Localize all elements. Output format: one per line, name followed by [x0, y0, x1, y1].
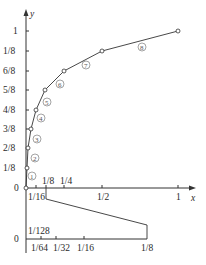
x-axis-label: x: [190, 193, 196, 203]
x-tick-1: 1: [176, 192, 181, 202]
point-5: [43, 88, 47, 92]
point-2: [26, 146, 30, 150]
y-tick-1: 1: [13, 26, 18, 36]
point-7: [100, 49, 104, 53]
segment-label-4: 4: [37, 114, 45, 123]
inset-tick-1-64: 1/64: [31, 243, 48, 253]
y-tick-1-8: 1/8: [3, 163, 15, 173]
segment-label-3: 3: [33, 135, 41, 144]
point-6: [62, 69, 66, 73]
x-tick-1-2: 1/2: [97, 192, 109, 202]
x-tick-1-16: 1/16: [28, 192, 45, 202]
svg-text:4: 4: [39, 115, 43, 123]
x-axis-arrow-icon: [189, 186, 196, 191]
y-tick-3-8: 3/8: [3, 124, 15, 134]
y-tick-4-8: 4/8: [3, 105, 15, 115]
y-tick-0: 0: [14, 183, 19, 193]
point-4: [34, 108, 38, 112]
y-tick-2-8: 2/8: [3, 143, 15, 153]
segment-label-6: 6: [56, 80, 64, 89]
segment-label-5: 5: [43, 98, 51, 107]
data-points: [24, 29, 180, 190]
svg-text:7: 7: [84, 62, 88, 70]
y-tick-5-8: 5/8: [3, 85, 15, 95]
segment-label-7: 7: [82, 61, 90, 70]
svg-text:2: 2: [33, 155, 37, 163]
inset-tick-1-32: 1/32: [53, 243, 70, 253]
piecewise-linear-curve: [26, 31, 178, 188]
x-tick-1-4: 1/4: [60, 176, 72, 186]
svg-text:1: 1: [30, 173, 34, 181]
y-axis-arrow-icon: [24, 9, 29, 16]
inset-tick-1-128: 1/128: [28, 226, 50, 236]
point-1: [25, 166, 29, 170]
y-tick-7-8: 1/8: [3, 46, 15, 56]
diagram-canvas: y x 1 1/8 6/8 5/8 4/8 3/8 2/8 1/8 0 1/8 …: [0, 0, 206, 265]
y-tick-labels: 1 1/8 6/8 5/8 4/8 3/8 2/8 1/8 0: [3, 26, 19, 193]
inset-y-tick-0: 0: [14, 234, 19, 244]
point-3: [29, 127, 33, 131]
segment-label-2: 2: [31, 154, 39, 163]
inset-tick-1-16: 1/16: [77, 243, 94, 253]
y-tick-6-8: 6/8: [3, 66, 15, 76]
segment-label-1: 1: [28, 172, 36, 181]
point-8: [176, 29, 180, 33]
segment-label-8: 8: [138, 43, 146, 52]
svg-text:8: 8: [140, 44, 144, 52]
point-0: [24, 186, 28, 190]
inset-tick-1-8: 1/8: [141, 243, 153, 253]
y-axis-label: y: [29, 9, 35, 19]
svg-text:6: 6: [58, 81, 62, 89]
segment-labels: 1 2 3 4 5 6 7 8: [28, 43, 146, 181]
svg-text:3: 3: [35, 136, 39, 144]
svg-text:5: 5: [45, 99, 49, 107]
x-tick-1-8: 1/8: [42, 176, 54, 186]
